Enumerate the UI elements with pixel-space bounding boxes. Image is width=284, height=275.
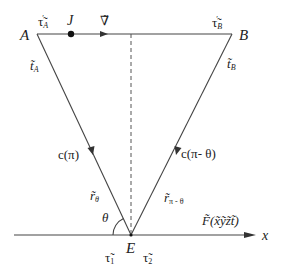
ray-diagram: A B τ̃A′ J ∇̃ τ̃B′ t̃A t̃B c(π) c(π- θ) … (0, 0, 284, 275)
label-t-b: t̃B (227, 56, 236, 72)
x-axis-arrow-icon (244, 232, 256, 238)
label-theta: θ (102, 210, 109, 225)
label-x-axis: x (261, 228, 269, 243)
label-tau-2: τ̃2 (143, 250, 153, 266)
label-r-pi-minus-theta: r̃π - θ (164, 190, 184, 206)
arrow-top-icon (100, 31, 108, 37)
point-j-dot (68, 31, 74, 37)
theta-angle-arc (113, 219, 124, 236)
label-c-pi-minus-theta: c(π- θ) (181, 146, 216, 161)
label-c-pi: c(π) (58, 147, 79, 162)
label-b: B (239, 27, 248, 43)
point-e-dot (129, 233, 132, 236)
label-r-theta: r̃θ (90, 188, 99, 204)
label-nabla: ∇̃ (100, 13, 109, 28)
label-e: E (125, 240, 135, 256)
label-j: J (67, 13, 74, 28)
label-tau-b-prime: τ̃B′ (212, 15, 222, 31)
label-tau-a-prime: τ̃A′ (38, 14, 48, 30)
label-a: A (19, 27, 30, 43)
label-tau-1: τ̃1 (105, 250, 115, 266)
segment-a-e (37, 34, 131, 235)
label-t-a: t̃A (30, 58, 39, 74)
label-f-field: F̃(x̃ỹz̃t̃) (201, 213, 239, 228)
